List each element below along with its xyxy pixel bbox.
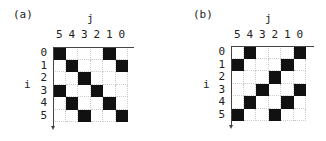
empty-cell (91, 47, 104, 60)
empty-cell (91, 110, 104, 123)
empty-cell (53, 97, 66, 110)
column-label: 1 (281, 28, 294, 40)
panel-b: (b) j 5 4 3 2 1 0 i 0 1 2 3 4 5 (163, 0, 326, 141)
column-labels: 5 4 3 2 1 0 (53, 28, 128, 40)
empty-cell (281, 84, 294, 97)
empty-cell (91, 72, 104, 85)
empty-cell (53, 72, 66, 85)
column-label: 5 (53, 28, 66, 40)
column-label: 4 (66, 28, 79, 40)
y-axis-label: i (203, 78, 210, 91)
filled-cell (244, 46, 257, 59)
empty-cell (294, 59, 307, 72)
empty-cell (103, 85, 116, 98)
filled-cell (66, 60, 79, 73)
empty-cell (53, 110, 66, 123)
y-axis-line (53, 47, 54, 127)
x-axis-line (53, 47, 134, 48)
column-label: 2 (91, 28, 104, 40)
column-label: 5 (231, 28, 244, 40)
empty-cell (269, 59, 282, 72)
y-axis-label: i (24, 78, 31, 91)
row-label: 5 (35, 110, 47, 123)
filled-cell (269, 109, 282, 122)
empty-cell (244, 109, 257, 122)
column-label: 2 (269, 28, 282, 40)
empty-cell (78, 47, 91, 60)
row-label: 4 (213, 96, 225, 109)
column-label: 3 (78, 28, 91, 40)
filled-cell (53, 85, 66, 98)
column-labels: 5 4 3 2 1 0 (231, 28, 306, 40)
empty-cell (231, 84, 244, 97)
filled-cell (269, 71, 282, 84)
arrow-down-icon (51, 126, 55, 130)
column-label: 1 (103, 28, 116, 40)
empty-cell (231, 71, 244, 84)
y-axis-line (231, 46, 232, 126)
empty-cell (91, 97, 104, 110)
empty-cell (116, 97, 129, 110)
filled-cell (91, 85, 104, 98)
empty-cell (53, 60, 66, 73)
filled-cell (256, 84, 269, 97)
empty-cell (231, 46, 244, 59)
row-label: 0 (213, 46, 225, 59)
row-label: 0 (35, 47, 47, 60)
matrix-grid (53, 47, 128, 122)
empty-cell (116, 85, 129, 98)
empty-cell (294, 96, 307, 109)
empty-cell (281, 109, 294, 122)
empty-cell (66, 85, 79, 98)
empty-cell (294, 71, 307, 84)
filled-cell (231, 109, 244, 122)
column-label: 0 (294, 28, 307, 40)
filled-cell (78, 72, 91, 85)
filled-cell (66, 97, 79, 110)
filled-cell (116, 60, 129, 73)
row-label: 4 (35, 97, 47, 110)
filled-cell (281, 96, 294, 109)
empty-cell (269, 84, 282, 97)
empty-cell (256, 109, 269, 122)
empty-cell (116, 72, 129, 85)
matrix-grid (231, 46, 306, 121)
empty-cell (103, 60, 116, 73)
empty-cell (281, 71, 294, 84)
empty-cell (244, 84, 257, 97)
empty-cell (91, 60, 104, 73)
filled-cell (294, 46, 307, 59)
arrow-down-icon (229, 125, 233, 129)
empty-cell (66, 47, 79, 60)
empty-cell (281, 46, 294, 59)
filled-cell (294, 84, 307, 97)
empty-cell (103, 72, 116, 85)
panel-tag: (a) (13, 8, 33, 21)
x-axis-label: j (265, 12, 272, 25)
empty-cell (78, 97, 91, 110)
column-label: 0 (116, 28, 129, 40)
row-label: 5 (213, 109, 225, 122)
panel-a: (a) j 5 4 3 2 1 0 i 0 1 2 3 4 5 (0, 0, 163, 141)
filled-cell (78, 110, 91, 123)
empty-cell (256, 46, 269, 59)
empty-cell (66, 72, 79, 85)
panel-tag: (b) (193, 8, 213, 21)
empty-cell (244, 59, 257, 72)
empty-cell (244, 71, 257, 84)
filled-cell (103, 97, 116, 110)
filled-cell (281, 59, 294, 72)
filled-cell (116, 110, 129, 123)
row-label: 2 (35, 72, 47, 85)
empty-cell (269, 46, 282, 59)
empty-cell (78, 60, 91, 73)
column-label: 3 (256, 28, 269, 40)
filled-cell (103, 47, 116, 60)
row-label: 2 (213, 71, 225, 84)
empty-cell (103, 110, 116, 123)
row-labels: 0 1 2 3 4 5 (35, 47, 47, 122)
filled-cell (231, 59, 244, 72)
empty-cell (66, 110, 79, 123)
empty-cell (256, 96, 269, 109)
x-axis-label: j (87, 12, 94, 25)
